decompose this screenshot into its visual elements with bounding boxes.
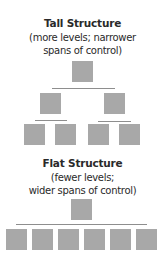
flat-structure-subtitle-line1: (fewer levels; — [0, 171, 165, 184]
flat-level1-connector — [16, 224, 147, 225]
flat-level2-box — [58, 229, 79, 250]
tall-structure-subtitle-line2: spans of control) — [0, 44, 165, 57]
flat-level1-box — [71, 199, 92, 220]
flat-level2-box — [84, 229, 105, 250]
tall-level2-connector — [98, 121, 131, 122]
tall-level3-box — [119, 124, 140, 145]
flat-level2-box — [6, 229, 27, 250]
tall-level3-box — [88, 124, 109, 145]
tall-level3-box — [24, 124, 45, 145]
tall-level1-connector — [52, 88, 115, 89]
flat-level2-box — [136, 229, 157, 250]
tall-level2-box — [104, 93, 125, 114]
tall-level3-box — [55, 124, 76, 145]
tall-structure-title: Tall Structure — [0, 17, 165, 29]
tall-structure-subtitle-line1: (more levels; narrower — [0, 31, 165, 44]
flat-structure-title: Flat Structure — [0, 157, 165, 169]
flat-level2-box — [110, 229, 131, 250]
tall-level1-box — [72, 61, 93, 82]
flat-level2-box — [32, 229, 53, 250]
tall-level2-connector — [35, 120, 67, 121]
tall-level2-box — [40, 93, 61, 114]
flat-structure-subtitle-line2: wider spans of control) — [0, 184, 165, 197]
